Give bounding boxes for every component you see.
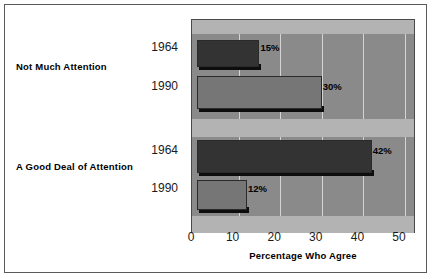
year-label-1964-group2: 1964 (136, 143, 178, 157)
x-tick-40: 40 (342, 230, 372, 244)
category-label-good-deal-attention: A Good Deal of Attention (16, 161, 133, 172)
x-tick-30: 30 (301, 230, 331, 244)
year-label-1990-group2: 1990 (136, 181, 178, 195)
bar-1990-12[interactable] (197, 180, 247, 210)
category-label-not-much-attention: Not Much Attention (16, 61, 107, 72)
value-label-1990-30: 30% (323, 81, 342, 92)
x-tick-20: 20 (259, 230, 289, 244)
value-label-1964-42: 42% (373, 145, 392, 156)
bar-1964-15[interactable] (197, 40, 259, 67)
year-label-1964-group1: 1964 (136, 40, 178, 54)
year-label-1990-group1: 1990 (136, 79, 178, 93)
chart-frame: Not Much Attention A Good Deal of Attent… (4, 4, 427, 273)
x-axis-title: Percentage Who Agree (191, 250, 415, 261)
value-label-1990-12: 12% (248, 183, 267, 194)
x-tick-10: 10 (218, 230, 248, 244)
plot-area (191, 19, 415, 233)
bar-1964-42[interactable] (197, 140, 372, 173)
bar-1990-30[interactable] (197, 76, 322, 109)
x-tick-0: 0 (176, 230, 206, 244)
value-label-1964-15: 15% (260, 42, 279, 53)
x-tick-50: 50 (384, 230, 414, 244)
background-band (192, 20, 414, 34)
background-band (192, 119, 414, 137)
